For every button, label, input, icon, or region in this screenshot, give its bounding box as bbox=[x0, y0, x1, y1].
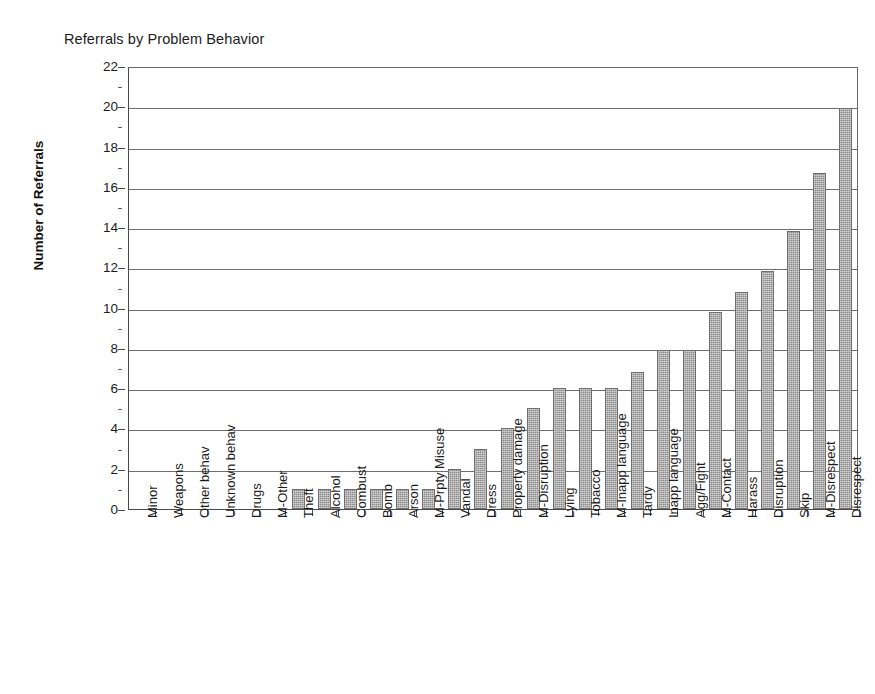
x-category-label: Vandal bbox=[459, 478, 472, 518]
x-category-label: Combust bbox=[355, 466, 368, 518]
chart-figure: Referrals by Problem Behavior Number of … bbox=[0, 0, 875, 694]
y-minor-tick bbox=[118, 87, 122, 88]
y-axis-tick-labels: 0246810121416182022 bbox=[72, 67, 118, 510]
x-category-label: Disrespect bbox=[850, 457, 863, 518]
y-major-tick bbox=[118, 67, 125, 68]
bars-layer bbox=[129, 68, 857, 509]
y-tick-label: 10 bbox=[78, 302, 118, 316]
y-tick-label: 0 bbox=[78, 503, 118, 517]
x-category-label: M-Disrespect bbox=[824, 441, 837, 518]
x-category-label: Theft bbox=[302, 488, 315, 518]
bar bbox=[839, 108, 852, 509]
x-category-label: Other behav bbox=[198, 446, 211, 518]
x-category-label: Lying bbox=[563, 487, 576, 518]
y-minor-tick bbox=[118, 127, 122, 128]
y-major-tick bbox=[118, 107, 125, 108]
x-category-label: Drugs bbox=[250, 483, 263, 518]
y-minor-tick bbox=[118, 329, 122, 330]
y-minor-tick bbox=[118, 208, 122, 209]
x-category-label: M-Disruption bbox=[537, 444, 550, 518]
y-major-tick bbox=[118, 268, 125, 269]
y-minor-tick bbox=[118, 490, 122, 491]
x-category-label: Minor bbox=[146, 485, 159, 518]
y-major-tick bbox=[118, 148, 125, 149]
y-major-tick bbox=[118, 228, 125, 229]
x-category-label: Dress bbox=[485, 484, 498, 518]
y-major-tick bbox=[118, 470, 125, 471]
x-category-label: Inapp language bbox=[667, 428, 680, 518]
y-tick-label: 16 bbox=[78, 181, 118, 195]
y-tick-label: 18 bbox=[78, 141, 118, 155]
y-major-tick bbox=[118, 389, 125, 390]
x-category-label: Unknown behav bbox=[224, 425, 237, 518]
y-major-tick bbox=[118, 349, 125, 350]
x-axis-category-labels: MinorWeaponsOther behavUnknown behavDrug… bbox=[128, 518, 858, 694]
y-major-tick bbox=[118, 429, 125, 430]
x-category-label: Arson bbox=[407, 484, 420, 518]
x-category-label: Disruption bbox=[772, 459, 785, 518]
y-tick-label: 8 bbox=[78, 342, 118, 356]
x-category-label: Harass bbox=[746, 477, 759, 518]
y-minor-tick bbox=[118, 289, 122, 290]
x-category-label: Agg/Fight bbox=[694, 462, 707, 518]
y-minor-tick bbox=[118, 369, 122, 370]
bar bbox=[787, 231, 800, 509]
y-tick-label: 6 bbox=[78, 382, 118, 396]
x-category-label: Tobacco bbox=[589, 470, 602, 518]
y-tick-label: 14 bbox=[78, 221, 118, 235]
x-category-label: Skip bbox=[798, 493, 811, 518]
x-category-label: Tardy bbox=[641, 486, 654, 518]
y-axis-title: Number of Referrals bbox=[31, 106, 46, 306]
y-major-tick bbox=[118, 510, 125, 511]
y-major-tick bbox=[118, 309, 125, 310]
y-tick-label: 4 bbox=[78, 423, 118, 437]
y-minor-tick bbox=[118, 168, 122, 169]
x-category-label: Property damage bbox=[511, 418, 524, 518]
y-minor-tick bbox=[118, 450, 122, 451]
x-category-label: M-Contact bbox=[720, 458, 733, 518]
x-category-label: Weapons bbox=[172, 463, 185, 518]
x-category-label: M-Other bbox=[276, 470, 289, 518]
x-category-label: Alcohol bbox=[329, 475, 342, 518]
x-category-label: M-Prpty Misuse bbox=[433, 428, 446, 518]
y-tick-label: 20 bbox=[78, 101, 118, 115]
y-major-tick bbox=[118, 188, 125, 189]
x-category-label: Bomb bbox=[381, 484, 394, 518]
y-minor-tick bbox=[118, 248, 122, 249]
y-tick-label: 2 bbox=[78, 463, 118, 477]
chart-title: Referrals by Problem Behavior bbox=[64, 31, 264, 47]
y-minor-tick bbox=[118, 409, 122, 410]
x-category-label: M-Inapp language bbox=[615, 413, 628, 518]
y-tick-label: 22 bbox=[78, 60, 118, 74]
y-tick-label: 12 bbox=[78, 262, 118, 276]
